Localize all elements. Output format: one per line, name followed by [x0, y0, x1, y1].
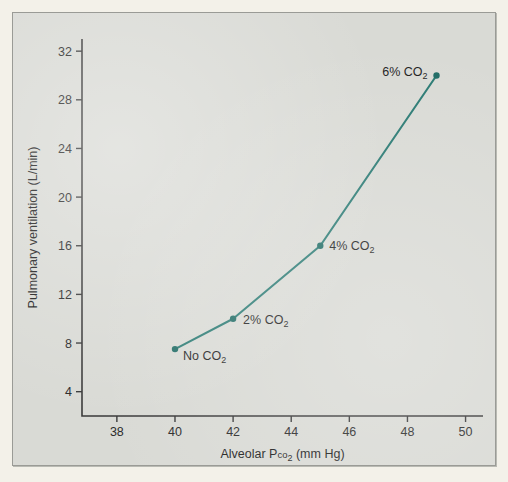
point-label-3: 6% CO2	[382, 65, 427, 81]
x-tick-label-50: 50	[459, 425, 473, 439]
data-point-2	[317, 243, 323, 249]
x-tick-label-48: 48	[400, 425, 414, 439]
y-tick-label-20: 20	[58, 191, 72, 205]
data-point-0	[172, 346, 178, 352]
y-tick-label-8: 8	[65, 337, 72, 351]
x-tick-label-44: 44	[284, 425, 298, 439]
y-tick-label-16: 16	[58, 239, 72, 253]
point-label-1: 2% CO2	[243, 313, 288, 329]
line-chart: 3840424446485048121620242832Pulmonary ve…	[13, 13, 497, 467]
y-tick-label-32: 32	[58, 45, 72, 59]
y-axis-title: Pulmonary ventilation (L/min)	[26, 147, 40, 309]
x-tick-label-42: 42	[226, 425, 240, 439]
y-tick-label-28: 28	[58, 93, 72, 107]
data-point-1	[230, 316, 236, 322]
x-axis-title: Alveolar Pco2 (mm Hg)	[220, 447, 344, 463]
data-line-series-0	[175, 75, 437, 349]
x-tick-label-40: 40	[168, 425, 182, 439]
data-point-3	[433, 72, 439, 78]
figure-container: 3840424446485048121620242832Pulmonary ve…	[0, 0, 508, 482]
point-label-2: 4% CO2	[329, 239, 374, 255]
x-tick-label-38: 38	[110, 425, 124, 439]
chart-panel: 3840424446485048121620242832Pulmonary ve…	[12, 12, 496, 466]
point-label-0: No CO2	[183, 349, 226, 365]
y-tick-label-4: 4	[65, 385, 72, 399]
y-tick-label-24: 24	[58, 142, 72, 156]
y-tick-label-12: 12	[58, 288, 72, 302]
x-tick-label-46: 46	[342, 425, 356, 439]
